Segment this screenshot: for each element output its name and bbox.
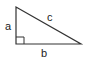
right-triangle-diagram: a c b bbox=[0, 0, 87, 60]
label-side-c: c bbox=[47, 11, 53, 23]
label-side-b: b bbox=[41, 47, 47, 59]
label-side-a: a bbox=[5, 20, 12, 32]
right-angle-marker bbox=[16, 37, 24, 44]
